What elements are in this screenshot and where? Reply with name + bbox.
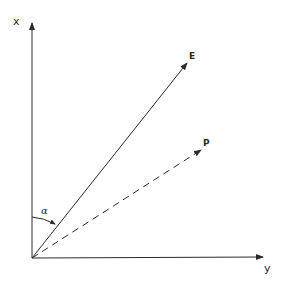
vector-e-label: E [189,51,195,61]
vector-p-label: P [203,138,210,148]
angle-alpha-label: α [41,205,48,216]
y-axis-label: y [264,262,271,275]
vector-e-line [32,63,187,258]
vector-diagram: x y E P α [0,0,288,282]
x-axis-label: x [13,15,20,28]
y-axis-line [32,257,263,258]
vector-p-line [32,150,201,258]
angle-alpha-arc [32,217,55,224]
